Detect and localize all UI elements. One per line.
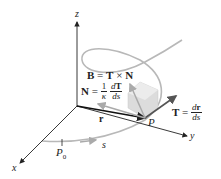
normal-equation: N = 1κ dTds [81, 82, 122, 101]
point-p0-label: P0 [56, 147, 66, 161]
x-axis [20, 106, 77, 163]
frenet-frame-diagram: z y x P0 s P r B = T × N N = 1κ dTds T =… [0, 0, 221, 179]
tangent-equation: T = drds [172, 103, 202, 122]
z-axis-label: z [75, 9, 79, 19]
position-vector-label: r [99, 114, 103, 124]
arc-length-label: s [102, 140, 106, 150]
point-p-label: P [148, 117, 155, 128]
y-axis-label: y [190, 131, 194, 141]
binormal-equation: B = T × N [87, 70, 133, 81]
x-axis-label: x [12, 163, 16, 173]
